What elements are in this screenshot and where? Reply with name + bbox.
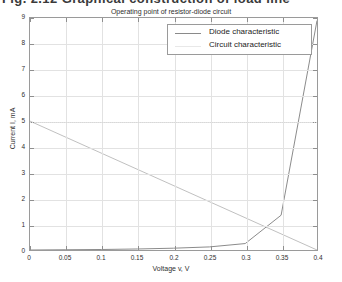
- x-tick-label: 0.05: [50, 254, 80, 261]
- x-tick-label: 0.1: [86, 254, 116, 261]
- x-tick-mark: [102, 246, 103, 250]
- y-tick-mark: [313, 148, 317, 149]
- y-tick-mark: [313, 18, 317, 19]
- x-tick-mark: [211, 18, 212, 22]
- y-tick-label: 6: [11, 91, 25, 98]
- y-tick-label: 7: [11, 65, 25, 72]
- x-tick-mark: [30, 246, 31, 250]
- y-tick-mark: [313, 200, 317, 201]
- y-tick-mark: [30, 70, 34, 71]
- y-tick-label: 9: [11, 13, 25, 20]
- y-tick-mark: [30, 226, 34, 227]
- gridline-horizontal: [30, 226, 317, 227]
- y-tick-label: 1: [11, 221, 25, 228]
- legend-label-diode: Diode characteristic: [209, 27, 279, 36]
- x-tick-mark: [66, 18, 67, 22]
- legend-entry-circuit: Circuit characteristic: [168, 40, 311, 53]
- x-tick-mark: [211, 246, 212, 250]
- x-tick-mark: [138, 18, 139, 22]
- gridline-vertical: [66, 18, 67, 250]
- operating-point-guide: [30, 122, 317, 123]
- y-axis-title: Current I, mA: [9, 94, 16, 164]
- gridline-horizontal: [30, 96, 317, 97]
- legend-sample-circuit: [175, 46, 201, 47]
- y-tick-label: 3: [11, 169, 25, 176]
- y-tick-mark: [313, 44, 317, 45]
- y-tick-mark: [30, 18, 34, 19]
- y-tick-label: 8: [11, 39, 25, 46]
- x-tick-mark: [66, 246, 67, 250]
- legend-label-circuit: Circuit characteristic: [209, 40, 281, 49]
- y-tick-label: 0: [11, 247, 25, 254]
- chart-legend: Diode characteristic Circuit characteris…: [167, 24, 312, 55]
- y-tick-mark: [30, 96, 34, 97]
- gridline-horizontal: [30, 200, 317, 201]
- x-tick-mark: [175, 246, 176, 250]
- x-axis-title: Voltage v, V: [0, 265, 342, 272]
- y-tick-mark: [30, 200, 34, 201]
- y-tick-mark: [313, 96, 317, 97]
- x-tick-label: 0.15: [122, 254, 152, 261]
- y-tick-mark: [313, 70, 317, 71]
- y-tick-mark: [313, 226, 317, 227]
- x-tick-mark: [283, 18, 284, 22]
- y-tick-label: 5: [11, 117, 25, 124]
- gridline-horizontal: [30, 70, 317, 71]
- x-tick-mark: [102, 18, 103, 22]
- y-tick-mark: [30, 44, 34, 45]
- y-tick-mark: [30, 174, 34, 175]
- x-tick-label: 0: [14, 254, 44, 261]
- gridline-horizontal: [30, 148, 317, 149]
- chart-title: Operating point of resistor-diode circui…: [0, 8, 342, 15]
- legend-sample-diode: [175, 33, 201, 34]
- x-tick-mark: [247, 18, 248, 22]
- clipped-heading-text: Fig. 2.12 Graphical construction of load…: [2, 0, 290, 6]
- x-tick-mark: [247, 246, 248, 250]
- y-tick-mark: [313, 174, 317, 175]
- x-tick-mark: [283, 246, 284, 250]
- x-tick-label: 0.25: [195, 254, 225, 261]
- gridline-vertical: [138, 18, 139, 250]
- y-tick-mark: [30, 148, 34, 149]
- x-tick-label: 0.3: [231, 254, 261, 261]
- legend-entry-diode: Diode characteristic: [168, 27, 311, 40]
- x-tick-mark: [175, 18, 176, 22]
- x-tick-label: 0.4: [303, 254, 333, 261]
- x-tick-label: 0.35: [267, 254, 297, 261]
- gridline-horizontal: [30, 174, 317, 175]
- chart-figure: Operating point of resistor-diode circui…: [0, 7, 342, 282]
- x-tick-mark: [138, 246, 139, 250]
- x-tick-label: 0.2: [159, 254, 189, 261]
- circuit-characteristic-line: [30, 121, 317, 250]
- y-tick-label: 4: [11, 143, 25, 150]
- gridline-vertical: [102, 18, 103, 250]
- y-tick-label: 2: [11, 195, 25, 202]
